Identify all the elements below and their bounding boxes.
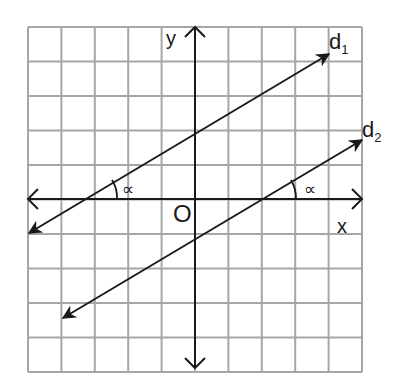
line-label-d2-subscript: 2 (374, 130, 381, 145)
axis-label-y: y (166, 27, 176, 49)
line-label-d2: d2 (362, 117, 381, 145)
line-label-d2-name: d (362, 117, 374, 142)
diagram: y x O d1 d2 ∝ ∝ (0, 0, 393, 391)
y-axis (185, 27, 205, 368)
axis-label-x: x (337, 215, 347, 237)
angle-arc-d1 (112, 180, 117, 199)
line-label-d1-name: d (329, 29, 341, 54)
line-d2 (63, 140, 362, 318)
angle-label-d1: ∝ (122, 180, 134, 199)
origin-label: O (173, 200, 192, 227)
line-label-d1: d1 (329, 29, 348, 57)
angle-label-d2: ∝ (304, 180, 316, 199)
line-label-d1-subscript: 1 (341, 42, 348, 57)
